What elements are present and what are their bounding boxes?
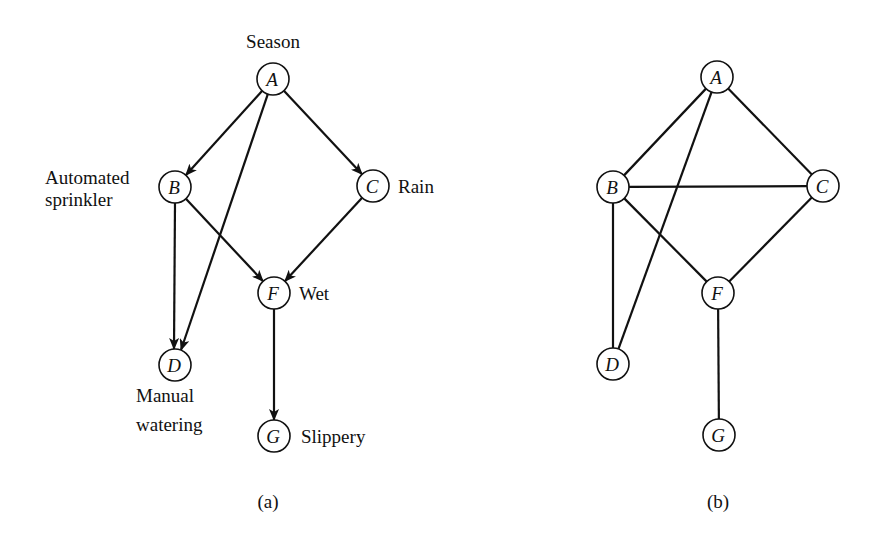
edge-b-c-panel-b [629, 186, 807, 187]
caption-a: (a) [257, 491, 278, 513]
edge-a-b-panel-b [624, 89, 706, 176]
edge-c-f-panel-b [729, 197, 812, 281]
node-g-panel-b: G [703, 419, 735, 451]
node-d-panel-a: DManualwatering [136, 349, 203, 435]
node-a-panel-b: A [701, 61, 733, 93]
node-letter: F [266, 283, 279, 304]
node-letter: C [366, 176, 379, 197]
node-f-panel-b: F [702, 277, 734, 309]
edge-a-c-panel-a [284, 91, 362, 175]
node-letter: D [166, 355, 181, 376]
node-letter: G [266, 426, 280, 447]
edge-b-f-panel-a [186, 199, 263, 282]
node-label-c: Rain [398, 176, 434, 197]
edge-b-d-panel-a [174, 203, 175, 349]
edge-a-c-panel-b [728, 88, 812, 174]
edge-a-b-panel-a [186, 91, 262, 175]
caption-b: (b) [707, 491, 729, 513]
node-a-panel-a: ASeason [246, 31, 300, 95]
node-letter: B [606, 177, 618, 198]
node-letter: G [711, 425, 725, 446]
node-b-panel-b: B [597, 171, 629, 203]
node-letter: F [710, 283, 723, 304]
node-label-d: watering [136, 414, 203, 435]
node-c-panel-a: CRain [357, 170, 434, 202]
node-d-panel-b: D [597, 348, 629, 380]
diagram-canvas: ASeasonBAutomatedsprinklerCRainDManualwa… [0, 0, 875, 543]
node-letter: D [604, 354, 619, 375]
node-label-g: Slippery [301, 426, 366, 447]
node-letter: A [708, 67, 722, 88]
node-label-a: Season [246, 31, 300, 52]
node-label-f: Wet [299, 283, 330, 304]
node-letter: B [168, 177, 180, 198]
node-c-panel-b: C [807, 170, 839, 202]
edge-f-g-panel-b [718, 309, 719, 419]
node-label-b: Automated [45, 167, 130, 188]
node-f-panel-a: FWet [258, 277, 330, 309]
node-letter: A [264, 69, 278, 90]
node-letter: C [816, 176, 829, 197]
panel-a-bayesian-network: ASeasonBAutomatedsprinklerCRainDManualwa… [45, 31, 434, 452]
node-label-d: Manual [136, 385, 194, 406]
node-label-b: sprinkler [45, 189, 113, 210]
panel-b-moral-graph: ABCDFG [597, 61, 839, 451]
edge-b-f-panel-b [624, 198, 706, 281]
node-g-panel-a: GSlippery [258, 420, 366, 452]
node-b-panel-a: BAutomatedsprinkler [45, 167, 191, 210]
edge-c-f-panel-a [285, 198, 362, 282]
